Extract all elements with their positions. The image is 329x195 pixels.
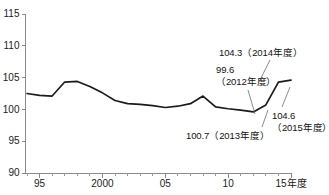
- x-tick-label: 15年度: [275, 177, 306, 189]
- y-axis: 9095100105110115: [3, 8, 26, 178]
- annotation-annot-2013: 100.7（2013年度）: [186, 130, 270, 142]
- y-tick-label: 95: [8, 135, 20, 146]
- annotation-annot-2015: 104.6 （2015年度）: [272, 110, 329, 133]
- x-tick-label: 05: [160, 178, 172, 189]
- line-chart: 9095100105110115 952000051015年度 104.3（20…: [0, 0, 329, 195]
- y-tick-label: 110: [4, 40, 20, 51]
- annotation-leader: [282, 87, 290, 107]
- x-tick-label: 10: [223, 178, 235, 189]
- x-tick-label: 95: [34, 178, 46, 189]
- annotation-annot-2012: 99.6 （2012年度）: [216, 64, 276, 87]
- y-tick-label: 115: [4, 8, 20, 19]
- annotation-annot-2014: 104.3（2014年度）: [219, 47, 303, 59]
- y-tick-label: 105: [3, 72, 20, 83]
- x-axis: 952000051015年度: [26, 173, 307, 189]
- x-tick-label: 2000: [91, 178, 114, 189]
- chart-canvas: 9095100105110115 952000051015年度: [0, 0, 329, 195]
- y-tick-label: 90: [8, 167, 20, 178]
- annotation-leader: [248, 90, 255, 114]
- y-tick-label: 100: [3, 104, 20, 115]
- annotation-leader: [262, 110, 268, 127]
